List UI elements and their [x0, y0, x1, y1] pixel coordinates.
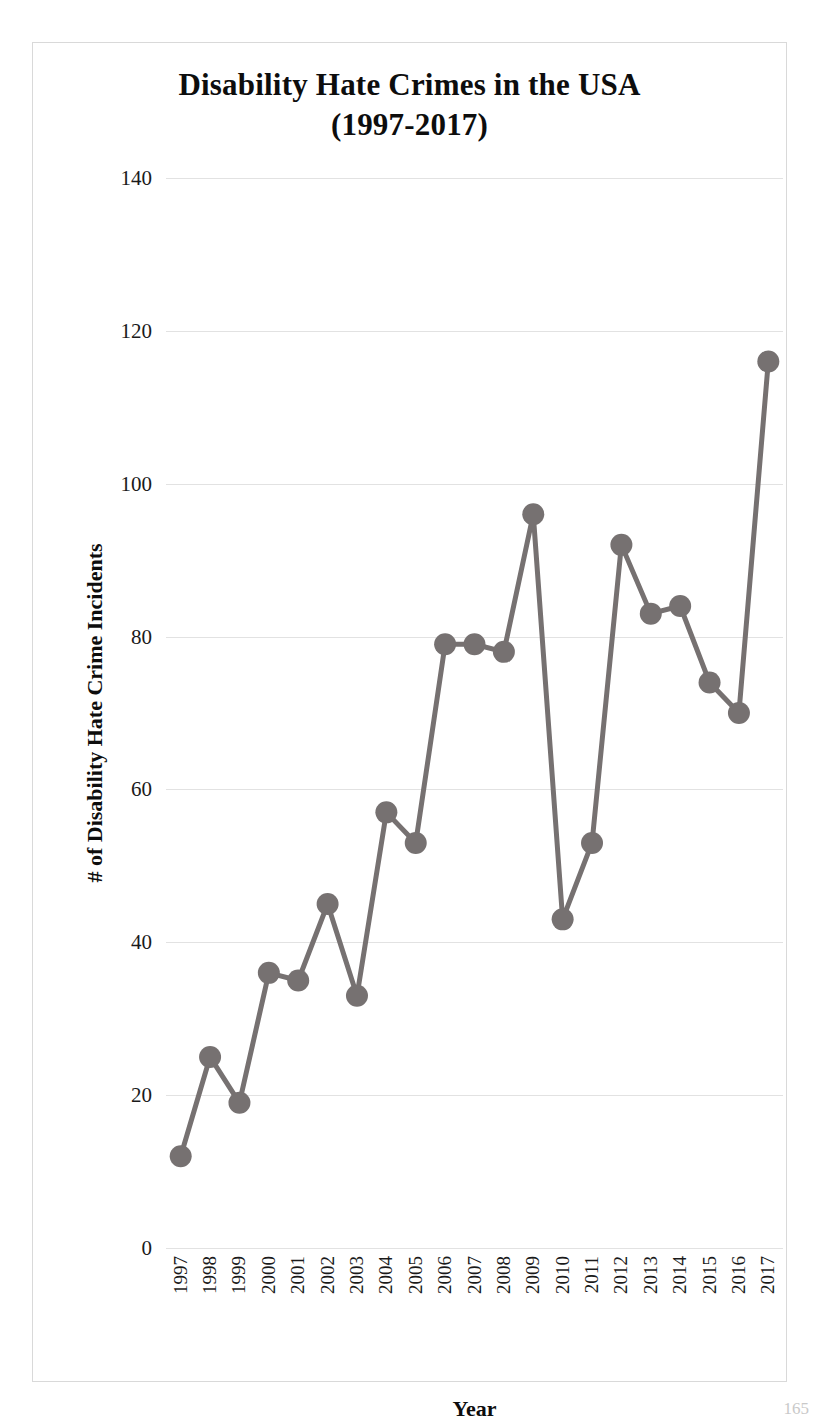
x-axis-tick-label: 2004 — [375, 1256, 397, 1294]
x-axis-tick-label: 2000 — [258, 1256, 280, 1294]
chart-title-line-1: Disability Hate Crimes in the USA — [33, 65, 786, 105]
data-point — [287, 970, 309, 992]
page-number: 165 — [784, 1399, 810, 1419]
data-point — [375, 801, 397, 823]
data-point — [464, 633, 486, 655]
series-line — [181, 361, 769, 1156]
data-point — [610, 534, 632, 556]
x-axis-tick-label: 1997 — [170, 1256, 192, 1294]
gridline — [166, 1248, 783, 1249]
data-point — [757, 350, 779, 372]
data-point — [640, 603, 662, 625]
data-point — [581, 832, 603, 854]
data-series — [166, 178, 783, 1248]
data-point — [228, 1092, 250, 1114]
x-axis-tick-label: 2012 — [610, 1256, 632, 1294]
plot-area: 020406080100120140 199719981999200020012… — [166, 178, 783, 1248]
x-axis-tick-label: 2009 — [522, 1256, 544, 1294]
y-axis-tick-label: 100 — [121, 471, 153, 496]
y-axis-label: # of Disability Hate Crime Incidents — [82, 543, 108, 882]
x-axis-tick-label: 2007 — [464, 1256, 486, 1294]
x-axis-tick-label: 2017 — [757, 1256, 779, 1294]
x-axis-tick-label: 2002 — [317, 1256, 339, 1294]
x-axis-tick-label: 2006 — [434, 1256, 456, 1294]
data-point — [170, 1145, 192, 1167]
x-axis-tick-label: 2016 — [728, 1256, 750, 1294]
y-axis-tick-label: 40 — [131, 930, 152, 955]
x-axis-tick-label: 2001 — [287, 1256, 309, 1294]
x-axis-tick-label: 2010 — [552, 1256, 574, 1294]
data-point — [669, 595, 691, 617]
data-point — [199, 1046, 221, 1068]
chart-figure: Disability Hate Crimes in the USA (1997-… — [32, 42, 787, 1382]
data-point — [728, 702, 750, 724]
data-point — [434, 633, 456, 655]
y-axis-tick-label: 60 — [131, 777, 152, 802]
x-axis-tick-label: 2005 — [405, 1256, 427, 1294]
data-point — [552, 908, 574, 930]
x-axis-tick-label: 2015 — [699, 1256, 721, 1294]
x-axis-tick-label: 1998 — [199, 1256, 221, 1294]
data-point — [317, 893, 339, 915]
y-axis-tick-label: 120 — [121, 318, 153, 343]
chart-title-line-2: (1997-2017) — [33, 105, 786, 145]
data-point — [493, 641, 515, 663]
x-axis-tick-label: 1999 — [228, 1256, 250, 1294]
x-axis-tick-label: 2008 — [493, 1256, 515, 1294]
y-axis-tick-label: 140 — [121, 166, 153, 191]
x-axis-label: Year — [166, 1396, 783, 1421]
x-axis-tick-label: 2003 — [346, 1256, 368, 1294]
data-point — [699, 671, 721, 693]
x-axis-tick-label: 2014 — [669, 1256, 691, 1294]
data-point — [522, 503, 544, 525]
x-axis-tick-label: 2013 — [640, 1256, 662, 1294]
y-axis-tick-label: 0 — [142, 1236, 153, 1261]
chart-title: Disability Hate Crimes in the USA (1997-… — [33, 65, 786, 145]
data-point — [346, 985, 368, 1007]
data-point — [258, 962, 280, 984]
y-axis-tick-label: 80 — [131, 624, 152, 649]
data-point — [405, 832, 427, 854]
y-axis-tick-label: 20 — [131, 1083, 152, 1108]
x-axis-tick-label: 2011 — [581, 1256, 603, 1293]
